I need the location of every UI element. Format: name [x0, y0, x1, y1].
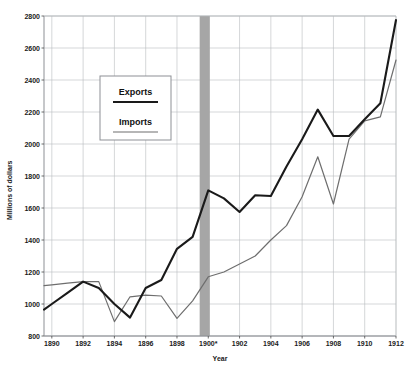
- chart-container: 8001000120014001600180020002200240026002…: [0, 0, 414, 367]
- x-tick-label: 1904: [263, 340, 279, 347]
- legend-label-exports: Exports: [119, 87, 153, 97]
- y-axis-tick-labels: 8001000120014001600180020002200240026002…: [24, 13, 44, 340]
- line-chart: 8001000120014001600180020002200240026002…: [0, 0, 414, 367]
- x-tick-label: 1896: [138, 340, 154, 347]
- y-tick-label: 1600: [24, 205, 40, 212]
- y-tick-label: 1400: [24, 237, 40, 244]
- x-tick-label: 1898: [169, 340, 185, 347]
- y-axis-title: Millions of dollars: [6, 160, 13, 220]
- x-axis-title-group: Year: [213, 355, 228, 362]
- y-tick-label: 2000: [24, 141, 40, 148]
- y-tick-label: 2600: [24, 45, 40, 52]
- x-axis-tick-labels: 189018921894189618981900*190219041906190…: [44, 336, 404, 347]
- x-tick-label: 1894: [107, 340, 123, 347]
- legend-label-imports: Imports: [119, 117, 152, 127]
- x-axis-title: Year: [213, 355, 228, 362]
- x-tick-label: 1910: [357, 340, 373, 347]
- x-tick-label: 1902: [232, 340, 248, 347]
- chart-legend[interactable]: ExportsImports: [100, 76, 171, 140]
- legend-box: [100, 76, 171, 140]
- y-tick-label: 2400: [24, 77, 40, 84]
- y-tick-label: 1800: [24, 173, 40, 180]
- y-tick-label: 2200: [24, 109, 40, 116]
- x-tick-label: 1906: [294, 340, 310, 347]
- y-tick-label: 1000: [24, 301, 40, 308]
- x-tick-label: 1908: [326, 340, 342, 347]
- x-tick-label: 1912: [388, 340, 404, 347]
- x-tick-label: 1892: [75, 340, 91, 347]
- y-tick-label: 800: [28, 333, 40, 340]
- y-tick-label: 2800: [24, 13, 40, 20]
- x-tick-label: 1890: [44, 340, 60, 347]
- y-tick-label: 1200: [24, 269, 40, 276]
- x-tick-label: 1900*: [199, 340, 218, 347]
- y-axis-title-group: Millions of dollars: [6, 160, 13, 220]
